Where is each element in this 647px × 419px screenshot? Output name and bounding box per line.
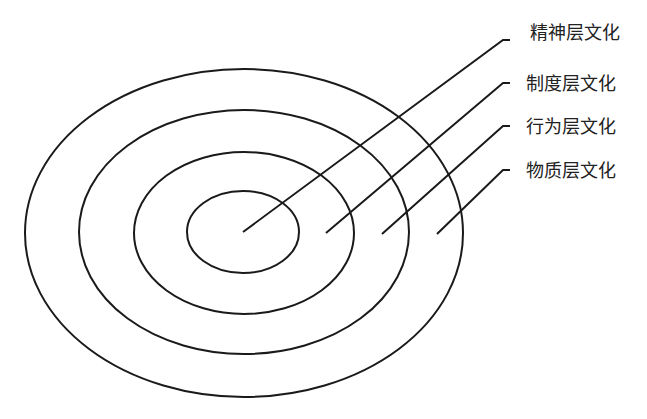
label-behavior-layer: 行为层文化: [526, 117, 616, 137]
leader-line-material: [437, 170, 510, 234]
concentric-layer-diagram: [0, 0, 647, 419]
label-spirit-layer: 精神层文化: [530, 23, 620, 43]
label-material-layer: 物质层文化: [526, 161, 616, 181]
leader-line-institution: [326, 83, 510, 233]
leader-line-behavior: [382, 126, 510, 234]
label-institution-layer: 制度层文化: [526, 74, 616, 94]
ellipse-institution-layer: [134, 152, 354, 314]
